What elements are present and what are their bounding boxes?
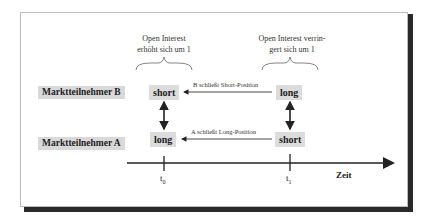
b-position-t1: long: [276, 85, 302, 100]
note-t0-line1: Open Interest: [122, 33, 206, 44]
participant-b-label: Marktteilnehmer B: [38, 86, 125, 99]
a-position-t0: long: [150, 132, 176, 147]
diagram-lines: [0, 0, 428, 219]
note-t0: Open Interest erhöht sich um 1: [122, 33, 206, 55]
time-axis-arrowhead: [383, 157, 395, 169]
note-t1-line2: gert sich um 1: [246, 44, 338, 55]
note-t1: Open Interest verrin- gert sich um 1: [246, 33, 338, 55]
tick-label-t0: t0: [160, 173, 166, 185]
tick-label-t1-sub: 1: [289, 179, 292, 185]
b-position-t0: short: [149, 85, 179, 100]
axis-label-zeit: Zeit: [336, 170, 352, 180]
note-t1-line1: Open Interest verrin-: [246, 33, 338, 44]
note-t0-line2: erhöht sich um 1: [122, 44, 206, 55]
participant-a-label: Marktteilnehmer A: [38, 137, 125, 150]
a-transition-label: A schließt Long-Position: [191, 128, 256, 135]
tick-label-t1: t1: [286, 173, 292, 185]
brace-t1: [262, 57, 318, 70]
a-position-t1: short: [275, 132, 305, 147]
b-transition-label: B schließt Short-Position: [193, 81, 258, 88]
brace-t0: [136, 57, 192, 70]
tick-label-t0-sub: 0: [163, 179, 166, 185]
